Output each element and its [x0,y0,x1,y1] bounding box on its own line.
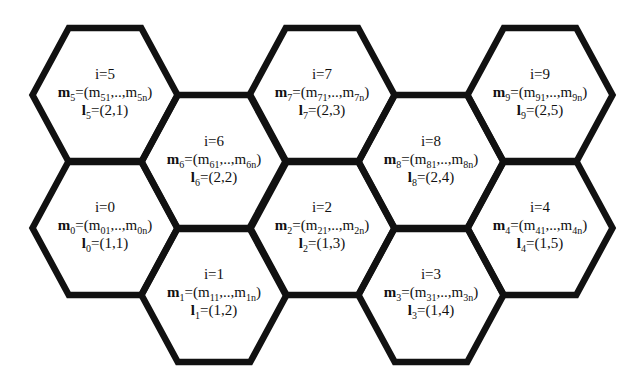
location-coordinates: l6=(2,2) [139,168,289,186]
last-element-subscript: 4n [572,225,582,236]
ellipsis: ,..,m [436,151,463,167]
location-coordinates: l5=(2,1) [30,101,180,119]
close-paren: ) [582,217,587,233]
cell-index-text: i=5 [95,66,115,82]
vector-symbol-m: m [275,84,288,100]
location-coordinates: l4=(1,5) [465,234,615,252]
cell-index-text: i=1 [204,266,224,282]
cell-index: i=3 [356,265,506,283]
ellipsis: ,..,m [219,151,246,167]
cell-index: i=7 [247,65,397,83]
last-element-subscript: 8n [463,159,473,170]
vector-symbol-m: m [58,217,71,233]
close-paren: ) [364,217,369,233]
close-paren: ) [147,84,152,100]
vector-symbol-m: m [384,151,397,167]
message-vector: m3=(m31,..,m3n) [356,283,506,301]
vector-symbol-m: m [493,84,506,100]
cell-index-text: i=9 [530,66,550,82]
ellipsis: ,..,m [436,284,463,300]
message-vector: m9=(m91,..,m9n) [465,83,615,101]
ellipsis: ,..,m [219,284,246,300]
cell-label-0: i=0m0=(m01,..,m0n)l0=(1,1) [30,198,180,252]
location-value: =(1,3) [308,235,345,251]
message-vector: m5=(m51,..,m5n) [30,83,180,101]
vector-symbol-m: m [275,217,288,233]
location-value: =(2,4) [417,169,454,185]
location-coordinates: l0=(1,1) [30,234,180,252]
last-element-subscript: 1n [246,292,256,303]
last-element-subscript: 5n [137,92,147,103]
location-value: =(1,5) [526,235,563,251]
close-paren: ) [473,151,478,167]
close-paren: ) [364,84,369,100]
ellipsis: ,..,m [545,84,572,100]
location-value: =(1,2) [200,302,237,318]
message-vector: m1=(m11,..,m1n) [139,283,289,301]
cell-index: i=6 [139,132,289,150]
eq-open: =(m [401,151,426,167]
last-element-subscript: 3n [463,292,473,303]
cell-label-1: i=1m1=(m11,..,m1n)l1=(1,2) [139,265,289,319]
eq-open: =(m [292,84,317,100]
eq-open: =(m [510,217,535,233]
cell-index: i=8 [356,132,506,150]
hexagonal-cell-diagram: i=5m5=(m51,..,m5n)l5=(2,1)i=6m6=(m61,..,… [0,0,643,391]
vector-symbol-m: m [167,151,180,167]
cell-index-text: i=7 [312,66,332,82]
cell-index-text: i=6 [204,133,224,149]
close-paren: ) [256,284,261,300]
cell-index: i=4 [465,198,615,216]
cell-index: i=1 [139,265,289,283]
close-paren: ) [256,151,261,167]
location-value: =(1,1) [91,235,128,251]
location-coordinates: l8=(2,4) [356,168,506,186]
cell-index-text: i=2 [312,199,332,215]
cell-index: i=5 [30,65,180,83]
cell-index-text: i=3 [421,266,441,282]
cell-label-6: i=6m6=(m61,..,m6n)l6=(2,2) [139,132,289,186]
ellipsis: ,..,m [110,217,137,233]
last-element-subscript: 7n [354,92,364,103]
cell-label-2: i=2m2=(m21,..,m2n)l2=(1,3) [247,198,397,252]
cell-label-4: i=4m4=(m41,..,m4n)l4=(1,5) [465,198,615,252]
cell-index: i=9 [465,65,615,83]
cell-index: i=0 [30,198,180,216]
eq-open: =(m [75,217,100,233]
last-element-subscript: 2n [354,225,364,236]
cell-label-9: i=9m9=(m91,..,m9n)l9=(2,5) [465,65,615,119]
ellipsis: ,..,m [327,84,354,100]
cell-label-7: i=7m7=(m71,..,m7n)l7=(2,3) [247,65,397,119]
cell-label-8: i=8m8=(m81,..,m8n)l8=(2,4) [356,132,506,186]
location-coordinates: l2=(1,3) [247,234,397,252]
cell-index-text: i=4 [530,199,550,215]
cell-label-5: i=5m5=(m51,..,m5n)l5=(2,1) [30,65,180,119]
eq-open: =(m [292,217,317,233]
ellipsis: ,..,m [545,217,572,233]
message-vector: m8=(m81,..,m8n) [356,150,506,168]
location-coordinates: l7=(2,3) [247,101,397,119]
close-paren: ) [147,217,152,233]
message-vector: m6=(m61,..,m6n) [139,150,289,168]
location-value: =(1,4) [417,302,454,318]
eq-open: =(m [185,284,210,300]
message-vector: m4=(m41,..,m4n) [465,216,615,234]
cell-index-text: i=8 [421,133,441,149]
close-paren: ) [473,284,478,300]
message-vector: m0=(m01,..,m0n) [30,216,180,234]
eq-open: =(m [510,84,535,100]
location-coordinates: l9=(2,5) [465,101,615,119]
location-value: =(2,5) [526,102,563,118]
location-coordinates: l3=(1,4) [356,301,506,319]
last-element-subscript: 9n [572,92,582,103]
location-value: =(2,1) [91,102,128,118]
location-coordinates: l1=(1,2) [139,301,289,319]
location-value: =(2,2) [200,169,237,185]
message-vector: m7=(m71,..,m7n) [247,83,397,101]
cell-index-text: i=0 [95,199,115,215]
last-element-subscript: 0n [137,225,147,236]
vector-symbol-m: m [384,284,397,300]
cell-label-3: i=3m3=(m31,..,m3n)l3=(1,4) [356,265,506,319]
vector-symbol-m: m [167,284,180,300]
eq-open: =(m [75,84,100,100]
